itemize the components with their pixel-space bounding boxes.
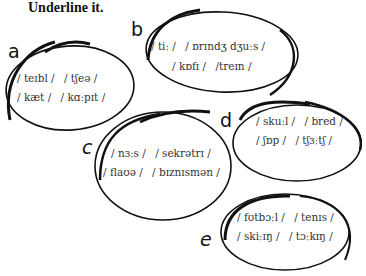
word-chip[interactable]: / skuːl /	[256, 115, 295, 127]
word-chip[interactable]: / sekrətrɪ /	[155, 147, 211, 159]
word-chip[interactable]: /treɪn /	[215, 60, 251, 72]
group-d-row-1: / skuːl / / bred /	[256, 115, 349, 127]
word-chip[interactable]: / kɒfɪ /	[172, 60, 206, 72]
circle-a	[3, 42, 137, 135]
word-chip[interactable]: / kæt /	[17, 91, 51, 103]
word-chip[interactable]: / tʃeə /	[64, 72, 97, 84]
group-c-row-2: / flaʊə / / bɪznɪsmən /	[103, 166, 226, 178]
word-chip[interactable]: / tʃɜːtʃ /	[295, 134, 332, 146]
group-label-e: e	[200, 228, 212, 250]
group-label-b: b	[131, 18, 143, 40]
word-chip[interactable]: / tɔːkɪŋ /	[289, 230, 333, 242]
word-chip[interactable]: / flaʊə /	[103, 166, 143, 178]
word-chip[interactable]: / kɑːpɪt /	[61, 91, 106, 103]
group-a-row-2: / kæt / / kɑːpɪt /	[17, 91, 111, 103]
word-chip[interactable]: / skiːɪŋ /	[237, 230, 280, 242]
group-e-row-1: / fʊtbɔːl / / tenɪs /	[237, 211, 340, 223]
group-d-row-2: / ʃɒp / / tʃɜːtʃ /	[256, 134, 338, 146]
group-c-row-1: / nɜːs / / sekrətrɪ /	[111, 147, 217, 159]
group-b-row-1: / tiː / / ɒrɪndʒ dʒuːs /	[151, 40, 271, 52]
word-chip[interactable]: / bred /	[305, 115, 343, 127]
word-chip[interactable]: / tenɪs /	[294, 211, 334, 223]
word-chip[interactable]: / bɪznɪsmən /	[152, 166, 220, 178]
word-chip[interactable]: / nɜːs /	[111, 147, 146, 159]
group-e-row-2: / skiːɪŋ / / tɔːkɪŋ /	[237, 230, 339, 242]
word-chip[interactable]: / fʊtbɔːl /	[237, 211, 285, 223]
group-label-a: a	[8, 40, 20, 62]
circle-b	[144, 8, 300, 96]
group-b-row-2: / kɒfɪ / /treɪn /	[172, 60, 257, 72]
group-a-row-1: / teɪbl / / tʃeə /	[17, 72, 103, 84]
word-chip[interactable]: / ɒrɪndʒ dʒuːs /	[185, 40, 265, 52]
word-chip[interactable]: / ʃɒp /	[256, 134, 286, 146]
word-chip[interactable]: / teɪbl /	[17, 72, 55, 84]
group-label-d: d	[220, 109, 232, 131]
group-label-c: c	[82, 136, 92, 158]
word-chip[interactable]: / tiː /	[151, 40, 176, 52]
